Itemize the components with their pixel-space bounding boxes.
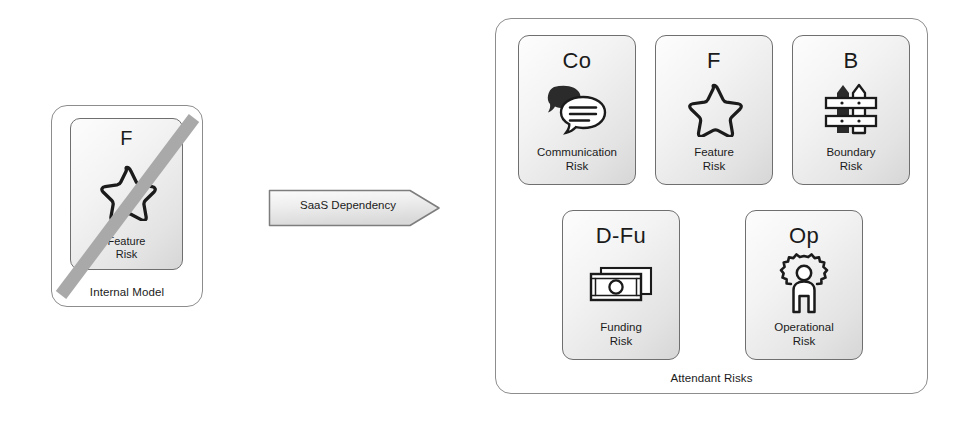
fence-icon xyxy=(793,72,909,146)
card-title-label: Funding Risk xyxy=(595,321,647,359)
saas-dependency-label: SaaS Dependency xyxy=(278,199,418,211)
internal-model-label: Internal Model xyxy=(51,286,203,298)
attendant-risks-label: Attendant Risks xyxy=(495,372,928,384)
banknotes-icon xyxy=(563,247,679,321)
card-title-label: Feature Risk xyxy=(689,146,739,184)
card-title-label: Communication Risk xyxy=(532,146,622,184)
card-code-label: F xyxy=(707,50,721,72)
star-icon xyxy=(656,72,772,146)
card-code-label: Co xyxy=(563,50,592,72)
card-code-label: F xyxy=(120,128,133,148)
card-title-label: Feature Risk xyxy=(103,235,151,269)
speech-bubbles-icon xyxy=(519,72,635,146)
card-operational-risk[interactable]: Op Operational Risk xyxy=(745,210,863,360)
card-boundary-risk[interactable]: B Boundary Risk xyxy=(792,35,910,185)
card-feature-risk[interactable]: F Feature Risk xyxy=(655,35,773,185)
card-code-label: D-Fu xyxy=(596,225,647,247)
card-communication-risk[interactable]: Co Communication Risk xyxy=(518,35,636,185)
person-in-gear-icon xyxy=(746,247,862,321)
card-title-label: Boundary Risk xyxy=(821,146,880,184)
card-funding-risk[interactable]: D-Fu Funding Risk xyxy=(562,210,680,360)
card-code-label: Op xyxy=(789,225,819,247)
star-icon xyxy=(71,148,182,235)
card-code-label: B xyxy=(843,50,858,72)
card-internal-feature-risk[interactable]: F Feature Risk xyxy=(70,118,183,270)
card-title-label: Operational Risk xyxy=(769,321,838,359)
